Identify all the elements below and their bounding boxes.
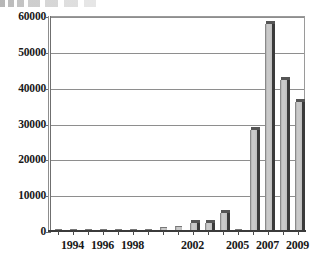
bar-face [206,223,213,230]
bar-top-edge [206,220,216,223]
x-tick [283,231,284,235]
x-tick [223,231,224,235]
x-tick [103,231,104,235]
y-axis-label: 40000 [18,82,46,94]
bar-chart: 0100002000030000400005000060000 19941996… [0,0,311,264]
x-tick [118,231,119,235]
x-tick [178,231,179,235]
x-tick [88,231,89,235]
bar-top-edge [296,99,306,102]
bar-top-edge [251,127,261,130]
x-axis-label-2007: 2007 [256,238,279,253]
x-tick [193,231,194,235]
x-axis-label-1994: 1994 [61,238,84,253]
y-axis-label: 20000 [18,153,46,165]
x-tick [163,231,164,235]
bar-2003 [205,223,213,230]
bar-face [266,24,273,230]
x-axis-label-1996: 1996 [91,238,114,253]
x-tick [238,231,239,235]
x-tick [268,231,269,235]
bar-2009 [295,102,303,230]
x-tick [208,231,209,235]
y-axis-label: 10000 [18,189,46,201]
x-axis-label-1998: 1998 [121,238,144,253]
plot-area [50,16,305,231]
bar-2004 [220,213,228,230]
x-axis-label-2009: 2009 [286,238,309,253]
bar-side-edge [302,99,305,230]
y-tick [46,232,51,233]
x-tick [73,231,74,235]
bar-side-edge [272,21,275,230]
bar-2008 [280,80,288,230]
bar-top-edge [281,77,291,80]
scan-artifact-strip [0,0,311,7]
y-axis-label: 0 [40,225,46,237]
y-axis-label: 30000 [18,118,46,130]
bar-face [191,223,198,230]
bar-side-edge [287,77,290,230]
bar-side-edge [257,127,260,230]
x-tick [298,231,299,235]
y-axis-label: 60000 [18,10,46,22]
y-axis-label: 50000 [18,46,46,58]
x-tick [253,231,254,235]
x-axis-label-2002: 2002 [181,238,204,253]
bar-2002 [190,223,198,230]
y-axis-line [48,16,51,232]
bar-top-edge [221,210,231,213]
x-tick [133,231,134,235]
x-tick [148,231,149,235]
x-tick [58,231,59,235]
gridline [51,17,304,18]
bar-face [296,102,303,230]
bar-2006 [250,130,258,230]
x-axis-label-2005: 2005 [226,238,249,253]
bar-top-edge [266,21,276,24]
bar-2007 [265,24,273,230]
bar-face [281,80,288,230]
bar-face [251,130,258,230]
bar-top-edge [191,220,201,223]
bar-face [221,213,228,230]
